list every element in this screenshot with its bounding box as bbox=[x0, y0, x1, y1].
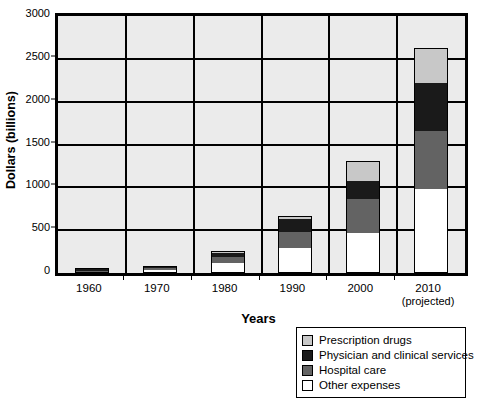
legend-item-label: Hospital care bbox=[319, 364, 386, 376]
category-separator bbox=[125, 16, 127, 273]
legend-item-label: Other expenses bbox=[319, 379, 400, 391]
bar-1990[interactable] bbox=[278, 216, 312, 273]
legend-swatch-icon bbox=[302, 380, 313, 391]
y-axis-tick-labels: 050010001500200025003000 bbox=[14, 13, 50, 270]
x-axis-tick-label-year: 1990 bbox=[280, 282, 306, 294]
bar-1980[interactable] bbox=[211, 251, 245, 273]
bar-2010[interactable] bbox=[414, 48, 448, 273]
bar-segment bbox=[414, 83, 448, 131]
y-axis-tick-label: 500 bbox=[32, 221, 50, 233]
x-axis-tick-label: 2010(projected) bbox=[402, 282, 455, 308]
bar-segment bbox=[346, 161, 380, 181]
x-axis-tick-labels: 196019701980199020002010(projected) bbox=[55, 282, 462, 314]
legend-swatch-icon bbox=[302, 365, 313, 376]
x-axis-tick-mark bbox=[259, 273, 260, 280]
legend-item[interactable]: Other expenses bbox=[302, 378, 460, 392]
legend-item-label: Prescription drugs bbox=[319, 334, 412, 346]
x-axis-tick-label: 2000 bbox=[347, 282, 373, 295]
category-separator bbox=[193, 16, 195, 273]
legend-item-label: Physician and clinical services bbox=[319, 349, 474, 361]
x-axis-tick-label-year: 1970 bbox=[144, 282, 170, 294]
bar-segment bbox=[278, 248, 312, 273]
x-axis-tick-mark bbox=[326, 273, 327, 280]
y-axis-tick-label: 2500 bbox=[26, 50, 50, 62]
category-separator bbox=[328, 16, 330, 273]
bar-segment bbox=[414, 131, 448, 189]
category-separator bbox=[396, 16, 398, 273]
bar-segment bbox=[211, 263, 245, 273]
category-separator bbox=[261, 16, 263, 273]
x-axis-tick-mark bbox=[394, 273, 395, 280]
bar-segment bbox=[346, 233, 380, 273]
legend-swatch-icon bbox=[302, 335, 313, 346]
bar-segment bbox=[414, 48, 448, 83]
x-axis-tick-label-year: 2010 bbox=[415, 282, 441, 294]
y-axis-tick-label: 0 bbox=[44, 264, 50, 276]
bar-2000[interactable] bbox=[346, 161, 380, 273]
chart-legend: Prescription drugsPhysician and clinical… bbox=[296, 327, 466, 398]
y-axis-tick-label: 1500 bbox=[26, 136, 50, 148]
x-axis-tick-label-year: 2000 bbox=[347, 282, 373, 294]
x-axis-tick-label-year: 1980 bbox=[212, 282, 238, 294]
x-axis-tick-label-note: (projected) bbox=[402, 295, 455, 308]
legend-item[interactable]: Hospital care bbox=[302, 363, 460, 377]
y-axis-tick-label: 3000 bbox=[26, 7, 50, 19]
x-axis-tick-label-year: 1960 bbox=[76, 282, 102, 294]
plot-inner bbox=[58, 16, 465, 273]
legend-item[interactable]: Prescription drugs bbox=[302, 333, 460, 347]
bar-segment bbox=[278, 219, 312, 233]
bar-1970[interactable] bbox=[143, 266, 177, 273]
x-axis-tick-label: 1960 bbox=[76, 282, 102, 295]
bar-segment bbox=[414, 189, 448, 273]
y-axis-tick-label: 2000 bbox=[26, 93, 50, 105]
x-axis-tick-mark bbox=[123, 273, 124, 280]
plot-area bbox=[55, 13, 468, 276]
x-axis-tick-label: 1970 bbox=[144, 282, 170, 295]
bar-segment bbox=[278, 232, 312, 248]
bar-segment bbox=[346, 199, 380, 232]
legend-swatch-icon bbox=[302, 350, 313, 361]
y-axis-tick-label: 1000 bbox=[26, 178, 50, 190]
legend-item[interactable]: Physician and clinical services bbox=[302, 348, 460, 362]
x-axis-title: Years bbox=[55, 311, 462, 326]
x-axis-tick-mark bbox=[191, 273, 192, 280]
x-axis-tick-label: 1980 bbox=[212, 282, 238, 295]
x-axis-tick-label: 1990 bbox=[280, 282, 306, 295]
bar-segment bbox=[346, 181, 380, 199]
